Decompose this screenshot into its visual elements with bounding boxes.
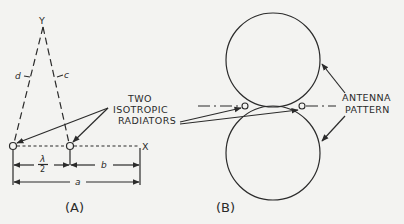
pattern-lobe-bottom xyxy=(226,106,320,200)
pattern-label-line1: ANTENNA xyxy=(342,92,391,103)
edge-c-label: c xyxy=(64,70,69,80)
c-leader xyxy=(57,75,63,77)
leader-pattern-top xyxy=(322,64,345,93)
radiators-callout: TWO ISOTROPIC RADIATORS xyxy=(17,93,298,143)
radiator-b-left-icon xyxy=(242,103,248,109)
apex-y-label: Y xyxy=(38,15,45,26)
leader-b-right xyxy=(180,110,298,124)
edge-d-line xyxy=(14,27,43,143)
two-label: 2 xyxy=(40,165,45,174)
edge-c-line xyxy=(43,27,69,143)
panel-b-caption: (B) xyxy=(216,200,235,215)
radiator-b-right-icon xyxy=(299,103,305,109)
d-leader xyxy=(24,76,30,77)
lambda-label: λ xyxy=(39,154,45,164)
radiator-left-icon xyxy=(10,143,17,150)
dimension-a-label: a xyxy=(75,177,81,187)
radiators-label-line2: ISOTROPIC xyxy=(113,104,168,115)
pattern-lobe-top xyxy=(226,13,320,107)
panel-a-caption: (A) xyxy=(65,200,84,215)
radiator-right-icon xyxy=(67,143,74,150)
antenna-diagram: Y d c X λ 2 b a (A) TWO ISO xyxy=(0,0,404,224)
leader-a-right xyxy=(73,108,108,142)
leader-pattern-bottom xyxy=(322,116,345,141)
axis-x-label: X xyxy=(142,141,149,152)
radiators-label-line1: TWO xyxy=(127,93,152,104)
edge-d-label: d xyxy=(15,71,21,81)
dimension-b-label: b xyxy=(101,160,107,170)
panel-b: ANTENNA PATTERN (B) xyxy=(198,13,391,215)
pattern-label-line2: PATTERN xyxy=(345,104,390,115)
radiators-label-line3: RADIATORS xyxy=(118,115,176,126)
